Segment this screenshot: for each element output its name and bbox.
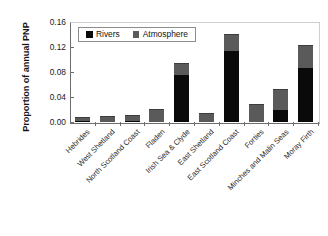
bar-group bbox=[199, 113, 214, 122]
chart-legend: RiversAtmosphere bbox=[78, 27, 196, 42]
bar-segment-rivers bbox=[125, 121, 140, 122]
y-tick-label: 0.16 bbox=[26, 18, 66, 26]
x-tick-mark bbox=[144, 122, 145, 126]
legend-swatch bbox=[86, 31, 93, 38]
bar-group bbox=[224, 34, 239, 123]
x-tick-mark bbox=[318, 122, 319, 126]
legend-label: Atmosphere bbox=[143, 30, 188, 38]
y-tick-label: 0.12 bbox=[26, 43, 66, 51]
bar-segment-atmosphere bbox=[224, 34, 239, 52]
bar-group bbox=[249, 104, 264, 122]
x-tick-mark bbox=[219, 122, 220, 126]
x-tick-mark bbox=[169, 122, 170, 126]
x-tick-mark bbox=[95, 122, 96, 126]
x-tick-mark bbox=[268, 122, 269, 126]
x-tick-mark bbox=[244, 122, 245, 126]
bar-segment-atmosphere bbox=[100, 116, 115, 122]
x-tick-mark bbox=[120, 122, 121, 126]
bar-group bbox=[298, 45, 313, 122]
bar-segment-atmosphere bbox=[199, 113, 214, 122]
legend-label: Rivers bbox=[96, 30, 120, 38]
bar-group bbox=[75, 117, 90, 122]
bar-group bbox=[125, 115, 140, 122]
bar-segment-atmosphere bbox=[174, 63, 189, 75]
bar-segment-atmosphere bbox=[273, 89, 288, 109]
y-tick-label: 0.00 bbox=[26, 118, 66, 126]
bar-group bbox=[100, 116, 115, 122]
bar-segment-atmosphere bbox=[149, 109, 164, 123]
x-tick-mark bbox=[293, 122, 294, 126]
bar-segment-rivers bbox=[298, 68, 313, 122]
bar-segment-rivers bbox=[75, 121, 90, 122]
legend-entry: Rivers bbox=[86, 30, 120, 38]
bar-group bbox=[273, 89, 288, 122]
y-tick-label: 0.04 bbox=[26, 93, 66, 101]
bar-segment-rivers bbox=[273, 110, 288, 123]
bar-segment-atmosphere bbox=[249, 104, 264, 122]
bar-group bbox=[174, 63, 189, 122]
x-tick-mark bbox=[194, 122, 195, 126]
bar-group bbox=[149, 109, 164, 123]
legend-entry: Atmosphere bbox=[133, 30, 188, 38]
chart-figure: Proportion of annual PNP 0.000.040.080.1… bbox=[0, 0, 328, 236]
bar-segment-rivers bbox=[224, 51, 239, 122]
y-tick-label: 0.08 bbox=[26, 68, 66, 76]
bar-segment-rivers bbox=[174, 75, 189, 122]
bar-segment-atmosphere bbox=[298, 45, 313, 68]
legend-swatch bbox=[133, 31, 140, 38]
